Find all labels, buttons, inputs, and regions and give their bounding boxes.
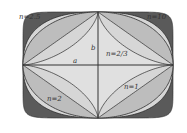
label-b: b (91, 45, 95, 52)
label-n-2-3: n=2/3 (106, 51, 128, 58)
label-n-2: n=2 (47, 96, 62, 103)
label-n-10: n=10 (147, 14, 166, 21)
label-a: a (73, 58, 77, 65)
label-n-1: n=1 (124, 84, 139, 91)
label-n-2-5: n=2.5 (19, 14, 41, 21)
